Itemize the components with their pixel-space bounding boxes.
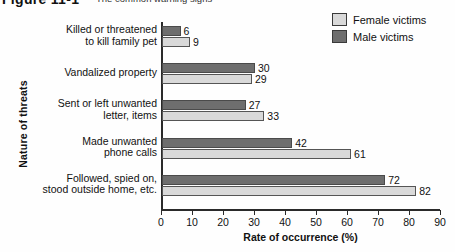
x-tick-label-70: 70 bbox=[372, 216, 384, 228]
value-label-female-2: 33 bbox=[267, 110, 279, 122]
x-axis-title: Rate of occurrence (%) bbox=[161, 231, 440, 243]
figure-number: Figure 11-1 bbox=[2, 0, 79, 7]
x-tick-30 bbox=[254, 210, 255, 215]
bar-male-1 bbox=[162, 63, 255, 73]
figure-caption: Figure 11-1 The common warning signs bbox=[0, 0, 455, 11]
x-tick-label-80: 80 bbox=[403, 216, 415, 228]
y-axis-title: Nature of threats bbox=[17, 49, 29, 199]
category-label-4: Followed, spied on,stood outside home, e… bbox=[43, 173, 157, 196]
bar-male-0 bbox=[162, 26, 181, 36]
category-label-line: Vandalized property bbox=[64, 67, 157, 79]
x-tick-label-30: 30 bbox=[248, 216, 260, 228]
x-tick-50 bbox=[316, 210, 317, 215]
value-label-female-1: 29 bbox=[255, 73, 267, 85]
category-label-line: Sent or left unwanted bbox=[58, 98, 157, 110]
x-tick-20 bbox=[223, 210, 224, 215]
category-label-1: Vandalized property bbox=[64, 67, 157, 79]
category-label-2: Sent or left unwantedletter, items bbox=[58, 98, 157, 121]
bar-female-0 bbox=[162, 37, 190, 47]
bar-female-3 bbox=[162, 149, 351, 159]
value-label-male-4: 72 bbox=[388, 174, 400, 186]
category-label-line: phone calls bbox=[82, 147, 157, 159]
x-tick-40 bbox=[285, 210, 286, 215]
x-tick-80 bbox=[409, 210, 410, 215]
x-tick-10 bbox=[192, 210, 193, 215]
figure-root: Figure 11-1 The common warning signs Fem… bbox=[0, 0, 455, 252]
bar-male-4 bbox=[162, 175, 385, 185]
plot-area: 0102030405060708090 693029273342617282 R… bbox=[161, 22, 440, 209]
category-label-line: Followed, spied on, bbox=[43, 173, 157, 185]
value-label-female-3: 61 bbox=[354, 148, 366, 160]
x-tick-label-60: 60 bbox=[341, 216, 353, 228]
value-label-female-4: 82 bbox=[419, 185, 431, 197]
x-tick-label-90: 90 bbox=[434, 216, 446, 228]
bar-female-2 bbox=[162, 111, 264, 121]
category-label-line: stood outside home, etc. bbox=[43, 184, 157, 196]
bar-male-2 bbox=[162, 100, 246, 110]
x-tick-label-50: 50 bbox=[310, 216, 322, 228]
x-tick-label-40: 40 bbox=[279, 216, 291, 228]
value-label-male-3: 42 bbox=[295, 137, 307, 149]
category-label-3: Made unwantedphone calls bbox=[82, 136, 157, 159]
x-tick-label-10: 10 bbox=[186, 216, 198, 228]
x-tick-label-20: 20 bbox=[217, 216, 229, 228]
value-label-female-0: 9 bbox=[193, 36, 199, 48]
category-label-line: Made unwanted bbox=[82, 136, 157, 148]
x-tick-90 bbox=[440, 210, 441, 215]
x-tick-60 bbox=[347, 210, 348, 215]
value-label-male-2: 27 bbox=[249, 99, 261, 111]
x-tick-70 bbox=[378, 210, 379, 215]
category-label-line: Killed or threatened bbox=[66, 24, 157, 36]
figure-caption-text: The common warning signs bbox=[96, 0, 212, 4]
category-label-0: Killed or threatenedto kill family pet bbox=[66, 24, 157, 47]
x-tick-0 bbox=[161, 210, 162, 215]
bar-female-4 bbox=[162, 186, 416, 196]
category-label-line: to kill family pet bbox=[66, 36, 157, 48]
x-tick-label-0: 0 bbox=[158, 216, 164, 228]
category-label-line: letter, items bbox=[58, 110, 157, 122]
value-label-male-0: 6 bbox=[184, 25, 190, 37]
bar-male-3 bbox=[162, 138, 292, 148]
bar-female-1 bbox=[162, 74, 252, 84]
x-axis-line bbox=[161, 209, 440, 211]
